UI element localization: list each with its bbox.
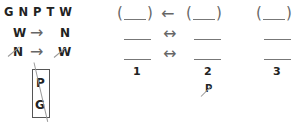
paren-close: ) (286, 6, 292, 21)
blank-3-top (263, 19, 285, 20)
paren-open: ( (117, 6, 123, 21)
paren-close: ) (147, 6, 153, 21)
column-label-1: 1 (133, 65, 141, 78)
rule1-to: N (60, 26, 70, 40)
blank-1-mid (124, 39, 151, 40)
right-arrow-icon: → (30, 25, 43, 41)
right-arrow-icon: → (30, 44, 43, 60)
blank-1-top (124, 19, 146, 20)
blank-3-mid (264, 39, 291, 40)
blank-2-bot (194, 59, 221, 60)
blank-3-bot (264, 59, 291, 60)
paren-open: ( (186, 6, 192, 21)
blank-2-top (193, 19, 215, 20)
double-arrow-icon: ↔ (163, 26, 176, 42)
double-arrow-icon: ↔ (163, 46, 176, 62)
column-label-2: 2 (204, 65, 212, 78)
paren-open: ( (256, 6, 262, 21)
left-arrow-icon: ← (161, 6, 174, 22)
letters-row: G N P T W (4, 5, 72, 19)
column-label-3: 3 (273, 65, 281, 78)
blank-2-mid (194, 39, 221, 40)
paren-close: ) (216, 6, 222, 21)
blank-1-bot (124, 59, 151, 60)
rule1-from: W (13, 26, 26, 40)
